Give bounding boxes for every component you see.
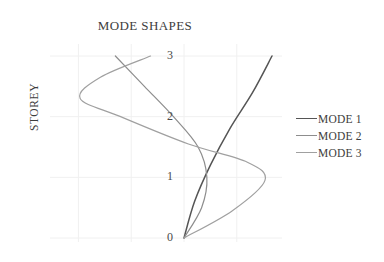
y-axis-title: STOREY [28,67,40,147]
series-line-2 [115,56,207,238]
grid-lines [50,44,284,242]
chart-title: MODE SHAPES [0,18,290,34]
y-tick-label: 1 [155,169,173,184]
legend-label: MODE 2 [318,130,362,142]
series-line-3 [80,56,266,238]
plot-area: 0123 [48,40,284,248]
chart-container: MODE SHAPES STOREY 0123 MODE 1MODE 2MODE… [0,0,384,262]
legend-swatch-line-icon [296,118,317,119]
legend-item-2[interactable]: MODE 2 [296,127,384,144]
legend-item-1[interactable]: MODE 1 [296,110,384,127]
legend-swatch-line-icon [296,135,317,136]
y-tick-label: 0 [155,230,173,245]
legend-label: MODE 1 [318,113,362,125]
legend-label: MODE 3 [318,147,362,159]
y-tick-label: 2 [155,109,173,124]
legend-item-3[interactable]: MODE 3 [296,144,384,161]
legend-swatch-line-icon [296,152,317,153]
series-lines [80,56,272,238]
chart-legend: MODE 1MODE 2MODE 3 [296,110,384,161]
y-tick-label: 3 [155,48,173,63]
mode-shapes-plot [48,40,284,248]
